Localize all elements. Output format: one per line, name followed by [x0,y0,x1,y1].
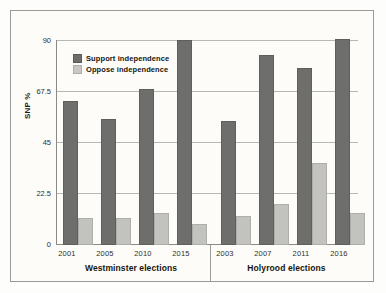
bar-support-2005 [101,119,116,245]
bar-group-2016 [333,40,367,245]
bar-oppose-2010 [154,213,169,245]
y-tick-label-45: 45 [17,138,51,147]
bar-support-2015 [177,40,192,245]
legend-swatch-oppose-icon [73,65,82,74]
x-tick-label-2011: 2011 [287,249,315,258]
y-axis-title: SNP % [23,92,32,119]
x-tick-label-2010: 2010 [129,249,157,258]
legend-item-oppose: Oppose independence [73,65,169,74]
chart-frame: SNP % 90 67.5 45 22.5 0 [10,10,374,282]
y-tick-label-22-5: 22.5 [17,189,51,198]
bar-support-2011 [297,68,312,245]
legend-label-support: Support independence [86,54,169,63]
x-tick-label-2003: 2003 [211,249,239,258]
group-title-holyrood: Holyrood elections [214,263,359,273]
bar-oppose-2005 [116,218,131,245]
x-tick-label-2007: 2007 [249,249,277,258]
bar-support-2016 [335,39,350,245]
bar-oppose-2011 [312,163,327,245]
chart-legend: Support independence Oppose independence [73,54,169,76]
bar-support-2007 [259,55,274,245]
bar-oppose-2001 [78,218,93,245]
group-title-westminster: Westminster elections [56,263,206,273]
bar-support-2001 [63,101,78,245]
bar-oppose-2016 [350,213,365,245]
x-tick-label-2016: 2016 [325,249,353,258]
bar-oppose-2015 [192,224,207,245]
y-tick-label-0: 0 [17,240,51,249]
group-separator [210,245,211,281]
x-tick-label-2005: 2005 [91,249,119,258]
bar-support-2010 [139,89,154,245]
legend-swatch-support-icon [73,54,82,63]
bar-oppose-2003 [236,216,251,245]
bar-oppose-2007 [274,204,289,245]
bar-group-2003 [219,40,253,245]
x-tick-label-2015: 2015 [167,249,195,258]
legend-item-support: Support independence [73,54,169,63]
y-tick-label-67-5: 67.5 [17,87,51,96]
bar-group-2007 [257,40,291,245]
bar-group-2011 [295,40,329,245]
chart-screenshot: SNP % 90 67.5 45 22.5 0 [0,0,386,293]
bar-support-2003 [221,121,236,245]
bar-group-2015 [175,40,209,245]
legend-label-oppose: Oppose independence [86,65,168,74]
y-tick-label-90: 90 [17,36,51,45]
x-tick-label-2001: 2001 [53,249,81,258]
